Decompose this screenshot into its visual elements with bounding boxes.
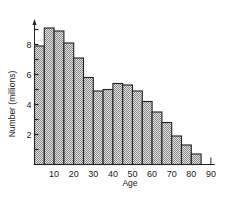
histogram-bar <box>93 91 103 165</box>
y-tick-label: 4 <box>26 100 31 110</box>
x-tick-label: 90 <box>206 169 216 179</box>
histogram-bar <box>152 112 162 165</box>
x-tick-label: 20 <box>69 169 79 179</box>
histogram-bar <box>182 145 192 165</box>
x-tick-label: 10 <box>49 169 59 179</box>
y-tick-label: 6 <box>26 70 31 80</box>
y-axis-label: Number (millions) <box>7 71 17 138</box>
y-axis-arrow-icon <box>33 19 37 25</box>
x-tick-label: 60 <box>147 169 157 179</box>
histogram-chart: 2468 102030405060708090 Number (millions… <box>0 0 241 200</box>
histogram-bar <box>133 91 143 165</box>
histogram-bar <box>172 136 182 165</box>
y-tick-label: 8 <box>26 40 31 50</box>
histogram-bar <box>74 58 84 165</box>
histogram-bar <box>103 90 113 165</box>
histogram-bar <box>54 31 64 165</box>
histogram-bar <box>64 43 74 165</box>
histogram-bar <box>123 85 133 165</box>
x-tick-label: 40 <box>108 169 118 179</box>
x-axis-label: Age <box>122 178 137 188</box>
bars-group <box>35 28 202 165</box>
histogram-bar <box>113 84 123 165</box>
histogram-bar <box>84 78 94 165</box>
histogram-bar <box>35 46 45 165</box>
y-tick-label: 2 <box>26 130 31 140</box>
histogram-bar <box>191 154 201 165</box>
histogram-bar <box>142 102 152 165</box>
x-tick-label: 70 <box>167 169 177 179</box>
histogram-bar <box>162 123 172 165</box>
histogram-bar <box>44 28 54 165</box>
x-tick-label: 30 <box>88 169 98 179</box>
x-tick-label: 80 <box>186 169 196 179</box>
